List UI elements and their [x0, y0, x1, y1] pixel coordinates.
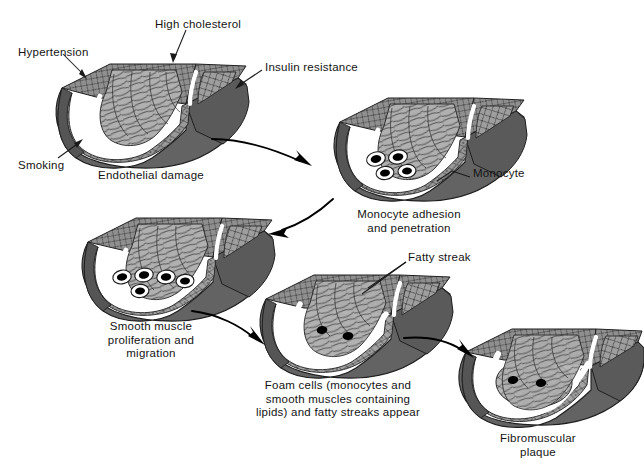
- callout-monocyte: Monocyte: [473, 167, 525, 181]
- label-high-cholesterol: High cholesterol: [155, 18, 241, 32]
- caption-stage-3: Smooth muscle proliferation and migratio…: [108, 320, 194, 361]
- stage-2-vessel: [334, 98, 527, 201]
- label-insulin-resistance: Insulin resistance: [265, 61, 358, 75]
- label-hypertension: Hypertension: [18, 46, 89, 60]
- flow-arrow-2-to-3: [268, 199, 333, 238]
- stage-4-vessel: [260, 275, 453, 378]
- caption-stage-2: Monocyte adhesion and penetration: [357, 208, 461, 235]
- stage-5-vessel: [459, 329, 644, 427]
- flow-arrow-1-to-2: [212, 139, 312, 166]
- stage-3-vessel: [82, 218, 275, 321]
- caption-stage-5: Fibromuscular plaque: [485, 432, 591, 459]
- caption-stage-4: Foam cells (monocytes and smooth muscles…: [256, 379, 420, 420]
- stage-1-vessel: [56, 64, 249, 168]
- caption-stage-1: Endothelial damage: [98, 169, 204, 183]
- label-smoking: Smoking: [18, 159, 64, 173]
- callout-fatty-streak: Fatty streak: [408, 251, 471, 265]
- atherosclerosis-diagram: Hypertension High cholesterol Insulin re…: [0, 0, 644, 461]
